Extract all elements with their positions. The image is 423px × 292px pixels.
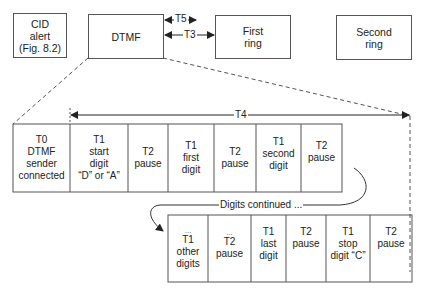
cell-text: digit bbox=[259, 250, 277, 262]
cell-text: pause bbox=[216, 248, 243, 260]
cell-text: T1 bbox=[263, 226, 275, 238]
cell-text: T2 bbox=[142, 146, 154, 158]
zoom-line-right bbox=[163, 58, 410, 116]
cell-text: T2 bbox=[316, 140, 328, 152]
t3-label: T3 bbox=[183, 29, 197, 41]
first-ring-line1: First bbox=[243, 25, 263, 37]
cell-text: start bbox=[89, 146, 108, 158]
cell-text: connected bbox=[18, 170, 64, 182]
row2-cell-pause-1: ... T2 pause bbox=[208, 211, 251, 278]
cell-text: pause bbox=[134, 158, 161, 170]
cell-text: last bbox=[261, 238, 277, 250]
cell-text: T2 bbox=[229, 146, 241, 158]
second-ring-box: Second ring bbox=[336, 15, 412, 60]
second-ring-line1: Second bbox=[356, 26, 392, 38]
cell-text: T0 bbox=[36, 134, 48, 146]
cell-text: digits bbox=[176, 258, 199, 270]
cell-text: digit bbox=[90, 158, 108, 170]
cell-text: pause bbox=[308, 152, 335, 164]
row2-cell-last-digit: T1 last digit bbox=[251, 210, 286, 277]
cell-text: pause bbox=[377, 238, 404, 250]
zoom-line-left bbox=[13, 58, 88, 124]
cell-text: sender bbox=[26, 158, 57, 170]
row2-cell-stop-digit: T1 stop digit “C” bbox=[326, 210, 370, 277]
row2-cell-pause-2: T2 pause bbox=[286, 204, 326, 271]
cell-text: T2 bbox=[300, 226, 312, 238]
cell-text: T1 bbox=[342, 226, 354, 238]
cell-text: pause bbox=[292, 238, 319, 250]
cell-text: stop bbox=[339, 238, 358, 250]
row1-cell-first-digit: T1 first digit bbox=[168, 124, 214, 192]
second-ring-line2: ring bbox=[356, 38, 392, 50]
cell-text: T2 bbox=[224, 236, 236, 248]
first-ring-box: First ring bbox=[215, 15, 291, 59]
dtmf-box: DTMF bbox=[88, 14, 164, 59]
cell-text: T1 bbox=[185, 140, 197, 152]
cid-alert-box: CID alert (Fig. 8.2) bbox=[13, 13, 67, 58]
cell-text: “D” or “A” bbox=[78, 170, 120, 182]
row2-cell-pause-3: T2 pause bbox=[370, 204, 412, 271]
t4-label: T4 bbox=[234, 109, 248, 121]
cell-text: first bbox=[183, 152, 199, 164]
cell-text: T1 bbox=[182, 234, 194, 246]
cid-line2: alert bbox=[19, 30, 61, 42]
row1-cell-pause-3: T2 pause bbox=[301, 118, 342, 186]
cell-text: T1 bbox=[273, 136, 285, 148]
row2-cell-other-digits: ... T1 other digits bbox=[168, 215, 208, 282]
cell-text: digit “C” bbox=[330, 250, 365, 262]
cell-text: other bbox=[177, 246, 200, 258]
row1-cell-pause-1: T2 pause bbox=[128, 124, 168, 192]
cell-text: T1 bbox=[93, 134, 105, 146]
t5-label: T5 bbox=[174, 13, 188, 25]
row1-cell-second-digit: T1 second digit bbox=[256, 120, 301, 188]
row1-cell-t0: T0 DTMF sender connected bbox=[13, 124, 70, 192]
row1-cell-start-digit: T1 start digit “D” or “A” bbox=[70, 124, 128, 192]
cell-text: digit bbox=[269, 160, 287, 172]
cid-line3: (Fig. 8.2) bbox=[19, 42, 61, 54]
cell-text: pause bbox=[221, 158, 248, 170]
row1-cell-pause-2: T2 pause bbox=[214, 124, 256, 192]
first-ring-line2: ring bbox=[243, 37, 263, 49]
cell-text: digit bbox=[182, 164, 200, 176]
cell-text: T2 bbox=[385, 226, 397, 238]
cell-text: DTMF bbox=[28, 146, 56, 158]
cid-line1: CID bbox=[19, 18, 61, 30]
cell-text: second bbox=[262, 148, 294, 160]
dtmf-label: DTMF bbox=[111, 31, 140, 43]
